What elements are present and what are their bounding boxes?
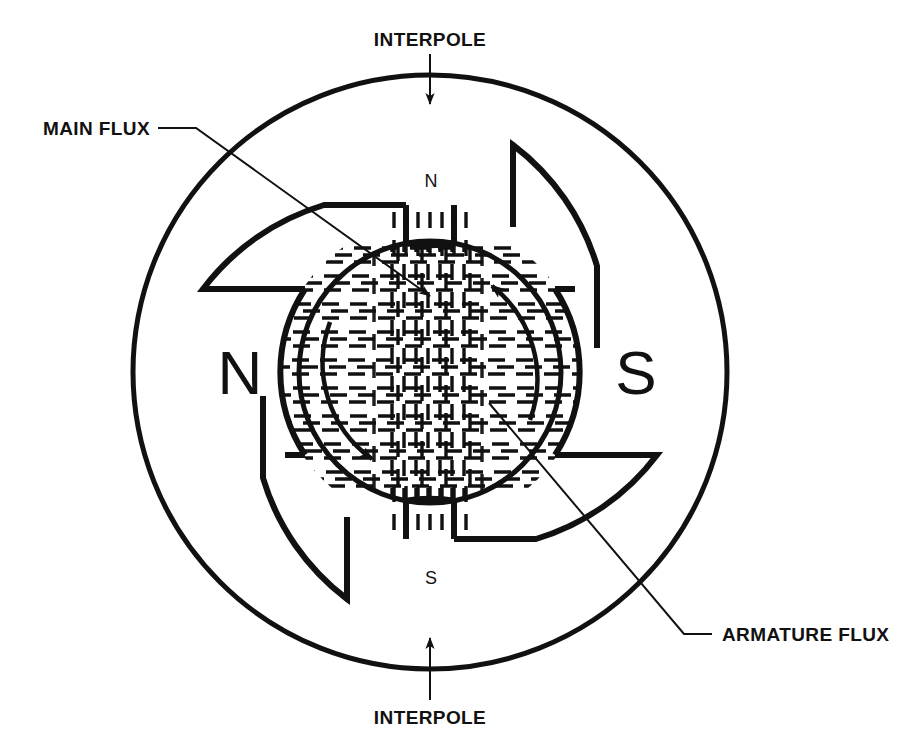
- pole-label-interpole-bottom: S: [425, 568, 437, 588]
- pole-quadrant-bottom-left: [263, 396, 347, 599]
- pole-quadrant-top-left: [203, 205, 406, 289]
- pole-label-main-right: S: [615, 338, 656, 407]
- callout-interpole-bottom: INTERPOLE: [374, 638, 486, 728]
- motor-svg: INTERPOLE INTERPOLE MAIN FLUX ARMATURE F…: [0, 0, 911, 742]
- main-flux-leader: [158, 128, 430, 296]
- callout-armature-flux: ARMATURE FLUX: [489, 403, 889, 645]
- motor-cross-section-diagram: INTERPOLE INTERPOLE MAIN FLUX ARMATURE F…: [0, 0, 911, 742]
- armature-circle: [299, 241, 561, 503]
- callout-interpole-top: INTERPOLE: [374, 29, 486, 104]
- armature-flux-label: ARMATURE FLUX: [722, 624, 889, 645]
- pole-label-main-left: N: [218, 338, 263, 407]
- rotation-arrow-lower: [323, 322, 372, 459]
- main-flux-label: MAIN FLUX: [43, 118, 150, 139]
- rotation-arrow-upper: [492, 286, 537, 420]
- pole-quadrant-bottom-right: [454, 455, 657, 539]
- interpole-top-label: INTERPOLE: [374, 29, 486, 50]
- armature-flux-leader: [489, 403, 712, 634]
- interpole-bottom-label: INTERPOLE: [374, 707, 486, 728]
- pole-label-interpole-top: N: [425, 171, 438, 191]
